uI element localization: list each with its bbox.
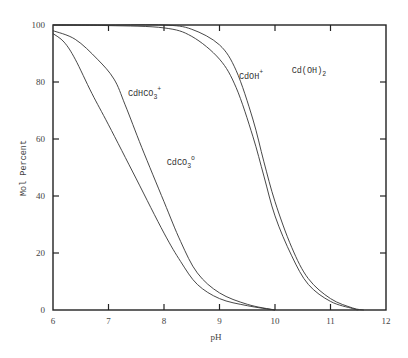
x-tick-label: 6 [51, 316, 56, 326]
y-tick-label: 80 [36, 77, 46, 87]
annotations: CdHCO3+CdCO3oCdOH+Cd(OH)2 [128, 66, 326, 169]
species-label: CdCO3o [167, 155, 195, 170]
y-ticks: 020406080100 [32, 20, 387, 315]
x-axis-label: pH [211, 332, 223, 342]
x-tick-label: 7 [106, 316, 111, 326]
y-tick-label: 40 [36, 191, 46, 201]
y-tick-label: 0 [41, 305, 46, 315]
species-label: Cd(OH)2 [292, 66, 327, 78]
x-tick-label: 12 [382, 316, 391, 326]
y-tick-label: 20 [36, 248, 46, 258]
x-tick-label: 9 [217, 316, 222, 326]
x-tick-label: 11 [326, 316, 335, 326]
species-label: CdHCO3+ [128, 86, 161, 101]
x-tick-label: 10 [271, 316, 281, 326]
y-tick-label: 60 [36, 134, 46, 144]
species-label: CdOH+ [239, 69, 263, 82]
plot-frame [53, 25, 386, 310]
x-tick-label: 8 [162, 316, 167, 326]
axes [53, 25, 386, 310]
y-tick-label: 100 [32, 20, 46, 30]
y-axis-label: Mol Percent [19, 140, 29, 196]
x-ticks: 6789101112 [51, 25, 391, 326]
chart: 6789101112 020406080100 CdHCO3+CdCO3oCdO… [0, 0, 408, 358]
